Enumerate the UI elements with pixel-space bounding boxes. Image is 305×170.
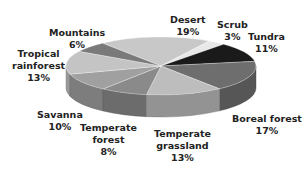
- label-tundra: Tundra 11%: [248, 31, 285, 55]
- label-value: 3%: [217, 31, 248, 43]
- label-value: 8%: [80, 146, 137, 158]
- pie-chart: [0, 0, 305, 170]
- label-mountains: Mountains 6%: [49, 27, 105, 51]
- label-name: Desert: [170, 14, 206, 26]
- label-name: Mountains: [49, 27, 105, 39]
- label-name: Tundra: [248, 31, 285, 43]
- label-name-2: grassland: [154, 140, 211, 152]
- label-value: 17%: [232, 125, 302, 137]
- label-value: 19%: [170, 26, 206, 38]
- label-name-2: forest: [80, 134, 137, 146]
- label-temperate-grassland: Temperate grassland 13%: [154, 128, 211, 164]
- label-desert: Desert 19%: [170, 14, 206, 38]
- label-temperate-forest: Temperate forest 8%: [80, 122, 137, 158]
- label-value: 11%: [248, 43, 285, 55]
- label-name: Boreal forest: [232, 113, 302, 125]
- label-savanna: Savanna 10%: [37, 109, 83, 133]
- label-scrub: Scrub 3%: [217, 19, 248, 43]
- label-name: Temperate: [80, 122, 137, 134]
- label-tropical-rainforest: Tropical rainforest 13%: [12, 48, 65, 84]
- label-name-2: rainforest: [12, 60, 65, 72]
- label-value: 13%: [154, 152, 211, 164]
- label-value: 13%: [12, 72, 65, 84]
- label-value: 10%: [37, 121, 83, 133]
- label-value: 6%: [49, 39, 105, 51]
- label-boreal-forest: Boreal forest 17%: [232, 113, 302, 137]
- label-name: Scrub: [217, 19, 248, 31]
- label-name: Temperate: [154, 128, 211, 140]
- label-name: Savanna: [37, 109, 83, 121]
